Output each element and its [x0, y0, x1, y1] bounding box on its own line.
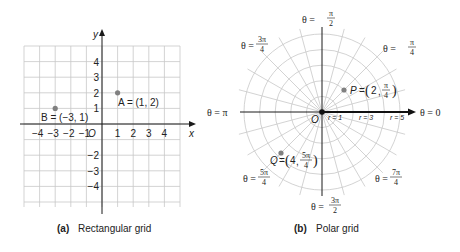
ring-label-r5: r = 5: [390, 114, 404, 121]
theta-5pi-over-4-label: θ = 5π 4: [243, 168, 270, 187]
svg-text:(: (: [365, 83, 370, 99]
svg-text:P: P: [350, 85, 357, 96]
polar-grid-chart: O r = 1 r = 3 r = 5 θ = 0 θ = π θ = π 2 …: [207, 9, 440, 234]
svg-text:7π: 7π: [392, 168, 400, 177]
rectangular-grid-chart: x y −4−3−2−112344321−2−3−4 O A = (1, 2) …: [20, 29, 196, 234]
pole-dot: [319, 109, 325, 115]
svg-text:4: 4: [384, 91, 388, 100]
theta-3pi-over-4-label: θ = 3π 4: [241, 35, 268, 54]
point-b-label: B = (−3, 1): [41, 112, 88, 123]
svg-text:−3: −3: [47, 128, 59, 139]
svg-text:θ =: θ =: [383, 43, 396, 54]
svg-text:θ =: θ =: [241, 40, 254, 51]
x-axis-label: x: [188, 128, 195, 139]
point-a: [115, 90, 120, 95]
figure: x y −4−3−2−112344321−2−3−4 O A = (1, 2) …: [0, 0, 460, 252]
point-b: [53, 106, 58, 111]
x-axis-arrow-icon: [189, 121, 196, 127]
polar-axis-arrow-icon: [408, 109, 416, 116]
svg-text:4: 4: [394, 178, 398, 187]
svg-text:4: 4: [304, 161, 308, 170]
svg-text:3π: 3π: [258, 35, 266, 44]
svg-text:π: π: [410, 38, 414, 47]
svg-text:2: 2: [93, 88, 99, 99]
theta-pi-over-2-label: θ = π 2: [302, 9, 335, 28]
svg-text:4: 4: [162, 128, 168, 139]
ring-label-r3: r = 3: [359, 114, 373, 121]
svg-text:1: 1: [93, 103, 99, 114]
svg-text:−3: −3: [88, 166, 100, 177]
svg-text:3: 3: [93, 72, 99, 83]
svg-text:θ =: θ =: [375, 173, 388, 184]
svg-text:4: 4: [410, 48, 414, 57]
svg-text:2: 2: [130, 128, 136, 139]
svg-text:2: 2: [329, 19, 333, 28]
point-p: [341, 87, 346, 92]
svg-text:−2: −2: [63, 128, 75, 139]
svg-text:2: 2: [371, 85, 377, 96]
svg-text:−4: −4: [32, 128, 44, 139]
y-axis-label: y: [92, 29, 99, 40]
theta-0-label: θ = 0: [420, 107, 440, 118]
caption-b-text: Polar grid: [316, 223, 359, 234]
svg-text:θ =: θ =: [243, 173, 256, 184]
svg-text:5π: 5π: [260, 168, 268, 177]
svg-text:π: π: [329, 9, 333, 18]
svg-text:1: 1: [115, 128, 121, 139]
svg-text:θ =: θ =: [311, 201, 324, 212]
theta-7pi-over-4-label: θ = 7π 4: [375, 168, 402, 187]
svg-text:4: 4: [262, 178, 266, 187]
theta-pi-label: θ = π: [207, 107, 227, 118]
svg-text:,: ,: [378, 86, 381, 97]
theta-pi-over-4-label: θ = π 4: [383, 38, 416, 57]
svg-text:): ): [392, 83, 397, 99]
svg-text:4: 4: [93, 57, 99, 68]
svg-text:4: 4: [260, 45, 264, 54]
svg-text:5π: 5π: [302, 151, 310, 160]
ring-label-r1: r = 1: [328, 114, 342, 121]
svg-text:π: π: [384, 81, 388, 90]
caption-a-text: Rectangular grid: [78, 223, 151, 234]
svg-text:,: ,: [296, 156, 299, 167]
svg-text:−4: −4: [88, 181, 100, 192]
pole-label: O: [311, 114, 319, 125]
svg-text:θ =: θ =: [302, 14, 315, 25]
y-axis-arrow-icon: [99, 29, 105, 36]
svg-text:2: 2: [333, 206, 337, 215]
svg-text:): ): [313, 153, 318, 169]
svg-text:3π: 3π: [331, 196, 339, 205]
svg-text:3: 3: [146, 128, 152, 139]
theta-3pi-over-2-label: θ = 3π 2: [311, 196, 341, 215]
svg-text:Q: Q: [270, 155, 278, 166]
caption-b-letter: (b): [294, 223, 307, 234]
point-p-label: P = ( 2 , π 4 ): [350, 81, 397, 100]
point-a-label: A = (1, 2): [118, 97, 159, 108]
origin-label: O: [88, 128, 96, 139]
caption-a-letter: (a): [57, 223, 69, 234]
x-axis: x: [20, 121, 196, 139]
svg-text:−2: −2: [88, 150, 100, 161]
